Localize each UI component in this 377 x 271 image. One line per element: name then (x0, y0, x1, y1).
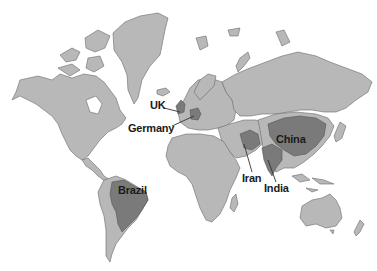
region-indonesia (292, 174, 334, 192)
region-madagascar (230, 194, 238, 212)
region-australia (300, 194, 342, 228)
label-china: China (276, 133, 306, 145)
label-uk: UK (150, 99, 166, 111)
region-north-america (12, 74, 126, 160)
label-india: India (264, 182, 289, 194)
world-map (0, 0, 377, 271)
region-iceland (157, 88, 170, 96)
region-tasmania (330, 230, 334, 234)
region-japan (334, 122, 346, 142)
label-brazil: Brazil (118, 184, 147, 196)
region-central-america (82, 158, 110, 182)
region-arctic-islands (58, 30, 110, 76)
label-germany: Germany (128, 122, 174, 134)
region-new-zealand (354, 220, 364, 236)
label-iran: Iran (242, 172, 261, 184)
